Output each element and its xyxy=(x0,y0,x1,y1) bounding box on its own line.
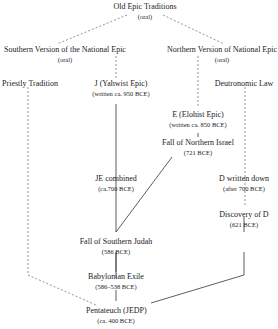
node-title: Southern Version of the National Epic xyxy=(0,45,130,55)
node-sub: (after 700 BCE) xyxy=(210,184,278,194)
node-deut-law: Deutronomic Law xyxy=(210,79,278,89)
node-pentateuch: Pentateuch (JEDP) (ca. 400 BCE) xyxy=(86,306,146,326)
node-title: Old Epic Traditions xyxy=(100,2,190,12)
node-title: D written down xyxy=(210,174,278,184)
node-sub: (written ca. 950 BCE) xyxy=(86,89,156,99)
node-sub: (oral) xyxy=(164,55,278,65)
node-title: Northern Version of National Epic xyxy=(164,45,278,55)
node-title: J (Yahwist Epic) xyxy=(86,79,156,89)
node-sub: (oral) xyxy=(0,55,130,65)
node-sub: (586 BCE) xyxy=(76,247,156,257)
node-sub: (ca.700 BCE) xyxy=(86,184,146,194)
node-title: Fall of Northern Israel xyxy=(160,138,236,148)
node-sub: (586–538 BCE) xyxy=(86,282,146,292)
node-northern: Northern Version of National Epic (oral) xyxy=(164,45,278,65)
node-fall-north: Fall of Northern Israel (721 BCE) xyxy=(160,138,236,158)
node-title: Priestly Tradition xyxy=(0,79,60,89)
node-je: JE combined (ca.700 BCE) xyxy=(86,174,146,194)
node-southern: Southern Version of the National Epic (o… xyxy=(0,45,130,65)
node-sub: (oral) xyxy=(100,12,190,22)
node-title: Discovery of D xyxy=(210,210,278,220)
node-d-written: D written down (after 700 BCE) xyxy=(210,174,278,194)
node-exile: Babylonian Exile (586–538 BCE) xyxy=(86,272,146,292)
node-sub: (621 BCE) xyxy=(210,220,278,230)
node-title: JE combined xyxy=(86,174,146,184)
node-old-epic: Old Epic Traditions (oral) xyxy=(100,2,190,22)
node-e: E (Elohist Epic) (written ca. 850 BCE) xyxy=(163,110,233,130)
node-title: Babylonian Exile xyxy=(86,272,146,282)
node-title: Fall of Southern Judah xyxy=(76,237,156,247)
node-priestly: Priestly Tradition xyxy=(0,79,60,89)
node-j: J (Yahwist Epic) (written ca. 950 BCE) xyxy=(86,79,156,99)
node-fall-south: Fall of Southern Judah (586 BCE) xyxy=(76,237,156,257)
node-title: Deutronomic Law xyxy=(210,79,278,89)
node-title: Pentateuch (JEDP) xyxy=(86,306,146,316)
node-sub: (written ca. 850 BCE) xyxy=(163,120,233,130)
node-title: E (Elohist Epic) xyxy=(163,110,233,120)
node-discovery-d: Discovery of D (621 BCE) xyxy=(210,210,278,230)
node-sub: (721 BCE) xyxy=(160,148,236,158)
node-sub: (ca. 400 BCE) xyxy=(86,316,146,326)
